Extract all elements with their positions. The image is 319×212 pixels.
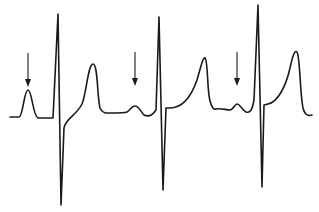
ecg-svg: [0, 0, 319, 212]
arrow-down-icon: [234, 78, 240, 86]
arrow-down-icon: [25, 79, 31, 87]
arrow-3: [234, 52, 240, 86]
arrow-2: [132, 52, 138, 86]
ecg-diagram: [0, 0, 319, 212]
ecg-trace: [10, 5, 312, 205]
arrow-down-icon: [132, 78, 138, 86]
arrow-1: [25, 53, 31, 87]
